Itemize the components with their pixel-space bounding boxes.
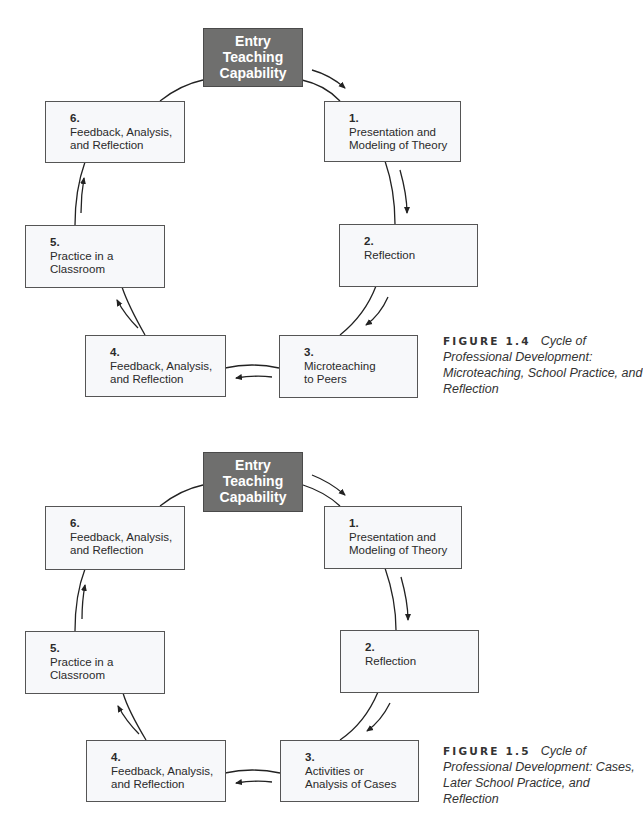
step-label: Presentation and Modeling of Theory <box>349 531 461 558</box>
step-label: Reflection <box>365 655 478 669</box>
step-label: Activities or Analysis of Cases <box>305 765 418 792</box>
step-1-box: 1. Presentation and Modeling of Theory <box>324 101 461 162</box>
step-label: Feedback, Analysis, and Reflection <box>110 360 225 387</box>
figure-caption: FIGURE 1.5Cycle of Professional Developm… <box>443 743 643 807</box>
step-label: Reflection <box>364 249 477 263</box>
figure-caption: FIGURE 1.4Cycle of Professional Developm… <box>443 333 643 397</box>
step-6-box: 6. Feedback, Analysis, and Reflection <box>45 506 185 570</box>
step-6-box: 6. Feedback, Analysis, and Reflection <box>45 101 185 163</box>
step-number: 5. <box>50 236 164 250</box>
step-number: 1. <box>349 112 460 126</box>
step-5-box: 5. Practice in a Classroom <box>25 631 165 694</box>
step-number: 2. <box>365 641 478 655</box>
step-number: 2. <box>364 235 477 249</box>
step-label: Practice in a Classroom <box>50 656 164 683</box>
step-3-box: 3. Activities or Analysis of Cases <box>280 740 419 802</box>
step-4-box: 4. Feedback, Analysis, and Reflection <box>86 740 226 802</box>
step-number: 6. <box>70 517 184 531</box>
step-number: 3. <box>305 751 418 765</box>
step-number: 5. <box>50 642 164 656</box>
arrow-5-to-6 <box>82 585 85 619</box>
arrow-1-to-2 <box>401 577 408 620</box>
step-label: Practice in a Classroom <box>50 250 164 277</box>
step-1-box: 1. Presentation and Modeling of Theory <box>324 506 462 569</box>
step-number: 4. <box>111 751 225 765</box>
figure-number: FIGURE 1.4 <box>443 335 531 347</box>
arrow-1-to-2 <box>400 170 407 213</box>
step-label: Feedback, Analysis, and Reflection <box>70 126 184 153</box>
arrow-entry-to-1 <box>312 475 345 495</box>
step-2-box: 2. Reflection <box>340 630 479 693</box>
step-label: Feedback, Analysis, and Reflection <box>111 765 225 792</box>
step-2-box: 2. Reflection <box>339 224 478 287</box>
entry-teaching-capability-box: Entry Teaching Capability <box>203 28 303 87</box>
step-label: Feedback, Analysis, and Reflection <box>70 531 184 558</box>
step-3-box: 3. Microteaching to Peers <box>279 335 418 398</box>
step-number: 4. <box>110 346 225 360</box>
step-number: 6. <box>70 112 184 126</box>
figure-1-4: Entry Teaching Capability 1. Presentatio… <box>0 0 631 420</box>
figure-1-5: Entry Teaching Capability 1. Presentatio… <box>0 405 631 815</box>
arrow-3-to-4 <box>236 781 272 783</box>
step-number: 1. <box>349 517 461 531</box>
step-4-box: 4. Feedback, Analysis, and Reflection <box>85 335 226 397</box>
figure-number: FIGURE 1.5 <box>443 745 531 757</box>
step-label: Microteaching to Peers <box>304 360 417 387</box>
step-number: 3. <box>304 346 417 360</box>
step-5-box: 5. Practice in a Classroom <box>25 225 165 288</box>
arrow-5-to-6 <box>81 178 84 213</box>
arrow-4-to-5 <box>118 706 139 734</box>
entry-teaching-capability-box: Entry Teaching Capability <box>203 452 303 512</box>
arrow-4-to-5 <box>117 300 138 328</box>
arrow-3-to-4 <box>236 376 272 378</box>
step-label: Presentation and Modeling of Theory <box>349 126 460 153</box>
